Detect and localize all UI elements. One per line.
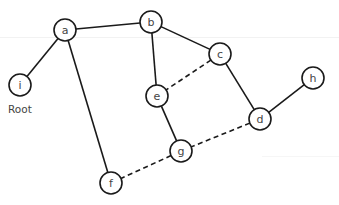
node-f: f xyxy=(100,172,122,194)
edge-c-d xyxy=(226,63,254,109)
node-a: a xyxy=(54,19,76,41)
edge-g-f xyxy=(121,156,171,179)
edge-a-f xyxy=(68,41,108,173)
root-label: Root xyxy=(8,103,32,115)
edge-b-e xyxy=(152,33,156,85)
edge-d-h xyxy=(269,85,305,113)
edge-a-b xyxy=(76,23,140,29)
graph-canvas: abcdefghi xyxy=(0,0,339,205)
node-label: e xyxy=(154,90,161,103)
node-e: e xyxy=(146,85,168,107)
edge-c-e xyxy=(166,60,211,90)
node-label: i xyxy=(18,79,21,92)
node-b: b xyxy=(140,11,162,33)
graph-diagram: abcdefghi Root xyxy=(0,0,339,205)
nodes-group: abcdefghi xyxy=(9,11,324,194)
edge-a-i xyxy=(27,39,58,77)
edge-d-g xyxy=(191,123,250,147)
node-h: h xyxy=(302,67,324,89)
node-label: h xyxy=(310,72,317,85)
node-label: b xyxy=(148,16,155,29)
edge-e-g xyxy=(161,106,176,141)
node-d: d xyxy=(249,108,271,130)
node-c: c xyxy=(209,43,231,65)
node-g: g xyxy=(170,140,192,162)
node-label: c xyxy=(217,48,223,61)
node-i: i xyxy=(9,74,31,96)
node-label: d xyxy=(257,113,264,126)
node-label: g xyxy=(178,145,185,158)
node-label: a xyxy=(62,24,69,37)
